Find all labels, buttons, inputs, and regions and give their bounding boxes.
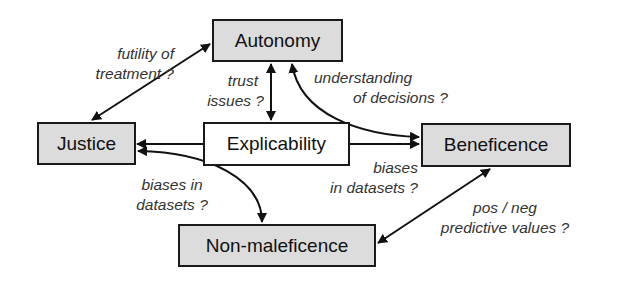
node-beneficence: Beneficence xyxy=(421,123,571,167)
node-justice: Justice xyxy=(37,122,136,165)
edge-label-line: biases xyxy=(300,158,418,178)
edge-label-line: in datasets ? xyxy=(300,178,418,198)
node-non-maleficence: Non-maleficence xyxy=(178,224,376,267)
edge-label-understanding: understanding of decisions ? xyxy=(314,68,514,108)
node-non-maleficence-label: Non-maleficence xyxy=(206,235,349,257)
edge-label-line: trust xyxy=(196,71,264,91)
edge-label-line: issues ? xyxy=(196,91,264,111)
node-beneficence-label: Beneficence xyxy=(444,134,549,156)
edge-label-trust: trust issues ? xyxy=(196,71,264,111)
edge-label-predictive: pos / neg predictive values ? xyxy=(420,198,590,238)
node-justice-label: Justice xyxy=(57,133,116,155)
edge-label-line: biases in xyxy=(122,175,222,195)
node-explicability-label: Explicability xyxy=(227,133,326,155)
edge-label-line: pos / neg xyxy=(420,198,590,218)
node-autonomy: Autonomy xyxy=(212,19,343,62)
node-autonomy-label: Autonomy xyxy=(235,30,321,52)
edge-label-line: datasets ? xyxy=(122,195,222,215)
edge-label-line: treatment ? xyxy=(34,64,174,84)
edge-label-line: predictive values ? xyxy=(420,218,590,238)
edge-label-futility: futility of treatment ? xyxy=(34,44,174,84)
edge-label-line: futility of xyxy=(34,44,174,64)
edge-label-biases-left: biases in datasets ? xyxy=(122,175,222,215)
edge-label-line: of decisions ? xyxy=(314,88,514,108)
edge-label-line: understanding xyxy=(314,68,514,88)
edge-label-biases-right: biases in datasets ? xyxy=(300,158,418,198)
